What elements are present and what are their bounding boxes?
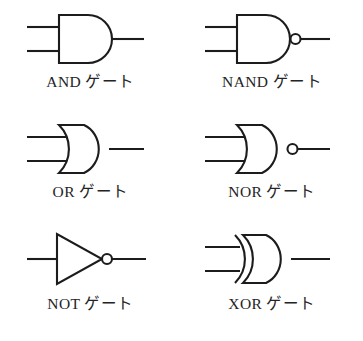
nor-output-bubble-icon xyxy=(288,144,298,154)
gate-cell-nand: NAND ゲート xyxy=(181,0,363,110)
gate-cell-not: NOT ゲート xyxy=(0,220,181,341)
not-output-bubble-icon xyxy=(102,254,112,264)
nand-gate-symbol xyxy=(204,6,340,72)
logic-gate-figure: AND ゲート NAND ゲート OR ゲート xyxy=(0,0,363,341)
gate-grid: AND ゲート NAND ゲート OR ゲート xyxy=(0,0,363,341)
gate-cell-and: AND ゲート xyxy=(0,0,181,110)
nor-gate-symbol xyxy=(204,116,340,182)
nand-output-bubble-icon xyxy=(291,34,301,44)
xor-gate-symbol xyxy=(204,226,340,292)
gate-cell-xor: XOR ゲート xyxy=(181,220,363,341)
gate-label-or: OR ゲート xyxy=(53,184,129,200)
gate-label-and: AND ゲート xyxy=(46,74,134,90)
gate-cell-nor: NOR ゲート xyxy=(181,110,363,220)
gate-label-nor: NOR ゲート xyxy=(228,184,315,200)
and-gate-symbol xyxy=(26,6,156,72)
not-gate-symbol xyxy=(26,226,156,292)
gate-cell-or: OR ゲート xyxy=(0,110,181,220)
or-gate-symbol xyxy=(26,116,156,182)
gate-label-not: NOT ゲート xyxy=(47,296,133,312)
gate-label-nand: NAND ゲート xyxy=(222,74,322,90)
xor-extra-arc-icon xyxy=(235,235,245,283)
gate-label-xor: XOR ゲート xyxy=(228,296,315,312)
